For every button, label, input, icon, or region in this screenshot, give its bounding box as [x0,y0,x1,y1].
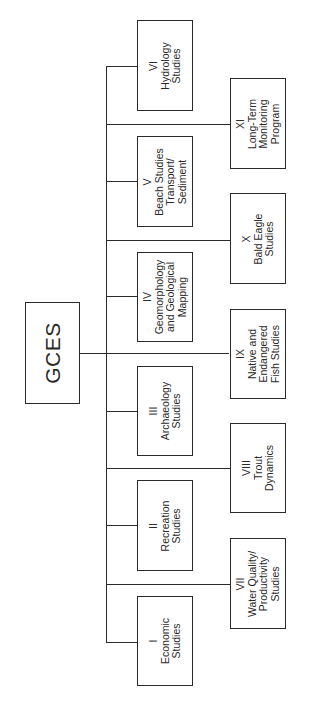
node-x-bald-eagle-studies: X Bald Eagle Studies [230,193,286,284]
node-v-beach-studies: V Beach Studies Transport/ Sediment [137,136,193,227]
node-label-line: Studies [171,500,183,551]
node-label-line: Studies [264,213,276,264]
node-label-line: Mapping [177,260,189,335]
node-numeral: V [142,148,154,216]
node-numeral: X [241,213,253,264]
node-label-line: and Geological [165,260,177,335]
node-label-line: Studies [171,42,183,89]
connector-iv [106,296,137,297]
root-node-gces: GCES [25,302,80,404]
node-label-line: Studies [270,550,282,616]
node-label-line: Productivity [258,550,270,616]
root-node-label: GCES [42,322,64,384]
node-iii-archaeology-studies: III Archaeology Studies [137,366,193,456]
node-ii-recreation-studies: II Recreation Studies [137,480,193,571]
node-viii-trout-dynamics: VIII Trout Dynamics [230,423,286,513]
node-label-line: Monitoring [258,98,270,148]
connector-x [106,240,230,241]
node-ix-native-endangered-fish: IX Native and Endangered Fish Studies [230,309,286,399]
node-vi-hydrology-studies: VI Hydrology Studies [137,20,193,111]
node-numeral: III [148,382,160,440]
node-numeral: VI [148,42,160,89]
connector-ii [106,525,137,526]
root-connector [79,353,229,354]
node-numeral: II [148,500,160,551]
node-numeral: XI [235,98,247,148]
connector-vi [106,66,137,67]
connector-viii [106,468,230,469]
node-numeral: VII [235,550,247,616]
node-numeral: IV [142,260,154,335]
node-label-line: Dynamics [264,445,276,491]
node-xi-long-term-monitoring: XI Long-Term Monitoring Program [230,78,286,169]
node-numeral: I [148,618,160,664]
node-vii-water-quality: VII Water Quality/ Productivity Studies [230,538,286,629]
node-iv-geomorphology: IV Geomorphology and Geological Mapping [137,252,193,342]
connector-vii [106,584,230,585]
node-label-line: Studies [171,618,183,664]
connector-v [106,181,137,182]
node-label-line: Endangered [258,325,270,383]
node-label-line: Fish Studies [270,325,282,383]
trunk-line [106,66,107,643]
node-numeral: IX [235,325,247,383]
node-numeral: VIII [241,445,253,491]
connector-iii [106,411,137,412]
node-i-economic-studies: I Economic Studies [137,596,193,686]
node-label-line: Program [270,98,282,148]
connector-i [106,642,137,643]
node-label-line: Transport/ [165,148,177,216]
node-label-line: Studies [171,382,183,440]
connector-xi [106,124,230,125]
node-label-line: Sediment [177,148,189,216]
